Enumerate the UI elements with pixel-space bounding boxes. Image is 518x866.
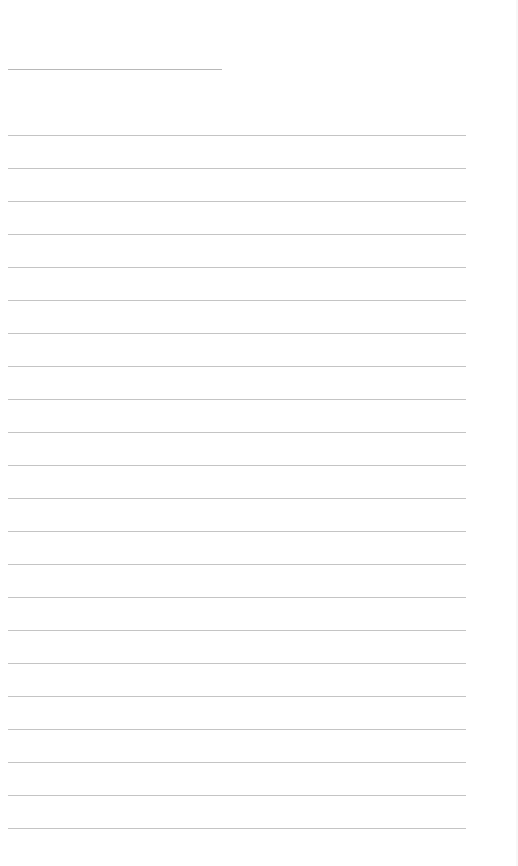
ruled-line (8, 267, 466, 268)
ruled-line (8, 432, 466, 433)
ruled-line (8, 168, 466, 169)
title-line (8, 69, 222, 70)
ruled-line (8, 333, 466, 334)
ruled-line (8, 234, 466, 235)
ruled-line (8, 366, 466, 367)
ruled-line (8, 828, 466, 829)
ruled-line (8, 597, 466, 598)
ruled-line (8, 762, 466, 763)
ruled-line (8, 399, 466, 400)
ruled-line (8, 465, 466, 466)
ruled-line (8, 531, 466, 532)
ruled-line (8, 498, 466, 499)
ruled-line (8, 135, 466, 136)
ruled-line (8, 729, 466, 730)
ruled-line (8, 300, 466, 301)
ruled-line (8, 564, 466, 565)
ruled-line (8, 795, 466, 796)
ruled-line (8, 663, 466, 664)
ruled-line (8, 630, 466, 631)
ruled-line (8, 201, 466, 202)
ruled-line (8, 696, 466, 697)
